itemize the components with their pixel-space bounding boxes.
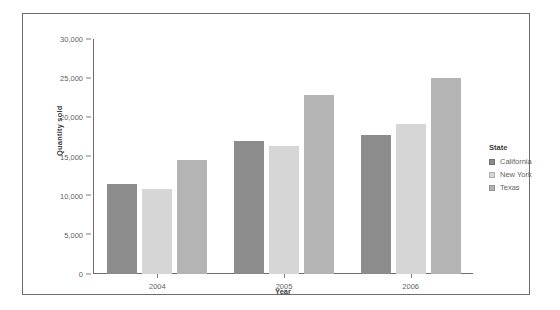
- bar[interactable]: [107, 184, 137, 274]
- y-axis-tick-mark: [86, 273, 91, 274]
- bar-group: 2004: [107, 39, 207, 274]
- y-axis-tick-mark: [86, 156, 91, 157]
- report-header-strip: [0, 0, 560, 12]
- legend-item-label: California: [500, 157, 532, 166]
- plot-inner: 05,00010,00015,00020,00025,00030,000 200…: [94, 39, 474, 274]
- bar[interactable]: [177, 160, 207, 274]
- y-axis-tick: 30,000: [60, 35, 94, 44]
- y-axis-tick-label: 25,000: [60, 74, 83, 83]
- bar[interactable]: [361, 135, 391, 274]
- y-axis-tick-mark: [86, 234, 91, 235]
- bar[interactable]: [396, 124, 426, 274]
- y-axis-tick-mark: [86, 77, 91, 78]
- y-axis-tick: 5,000: [64, 230, 94, 239]
- y-axis-tick-label: 20,000: [60, 113, 83, 122]
- x-axis-tick-mark: [157, 274, 158, 278]
- plot-area: 05,00010,00015,00020,00025,00030,000 200…: [93, 39, 473, 274]
- legend-title: State: [489, 143, 560, 152]
- legend-item[interactable]: California: [489, 157, 560, 166]
- y-axis-tick-mark: [86, 38, 91, 39]
- chart-page: Quantity sold 05,00010,00015,00020,00025…: [0, 0, 560, 310]
- legend-items: CaliforniaNew YorkTexas: [489, 157, 560, 192]
- bar[interactable]: [431, 78, 461, 274]
- y-axis-tick: 25,000: [60, 74, 94, 83]
- legend-item[interactable]: New York: [489, 170, 560, 179]
- bar[interactable]: [234, 141, 264, 274]
- x-axis-tick-mark: [284, 274, 285, 278]
- report-frame: Quantity sold 05,00010,00015,00020,00025…: [22, 13, 530, 295]
- legend-item-label: New York: [500, 170, 532, 179]
- bars: [107, 39, 207, 274]
- bar[interactable]: [142, 189, 172, 274]
- y-axis-tick: 15,000: [60, 152, 94, 161]
- legend: State CaliforniaNew YorkTexas: [489, 143, 560, 196]
- bar[interactable]: [304, 95, 334, 274]
- x-axis-tick-mark: [411, 274, 412, 278]
- y-axis-tick: 10,000: [60, 191, 94, 200]
- legend-item-label: Texas: [500, 183, 520, 192]
- y-axis-tick-label: 0: [79, 270, 83, 279]
- y-axis-tick-label: 30,000: [60, 35, 83, 44]
- y-axis-tick: 0: [79, 270, 94, 279]
- legend-swatch: [489, 159, 495, 165]
- bar[interactable]: [269, 146, 299, 274]
- y-axis-tick-label: 5,000: [64, 230, 83, 239]
- bar-group: 2006: [361, 39, 461, 274]
- y-axis-tick-mark: [86, 116, 91, 117]
- y-axis-tick-mark: [86, 195, 91, 196]
- bar-group: 2005: [234, 39, 334, 274]
- legend-item[interactable]: Texas: [489, 183, 560, 192]
- legend-swatch: [489, 172, 495, 178]
- bars: [234, 39, 334, 274]
- bars: [361, 39, 461, 274]
- y-axis-tick: 20,000: [60, 113, 94, 122]
- y-axis-tick-label: 15,000: [60, 152, 83, 161]
- legend-swatch: [489, 185, 495, 191]
- y-axis-tick-label: 10,000: [60, 191, 83, 200]
- x-axis-title: Year: [93, 287, 473, 296]
